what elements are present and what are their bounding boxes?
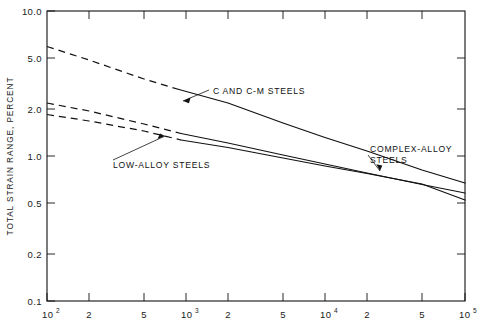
x-tick-label-1e3-mantissa: 10 [181, 309, 192, 320]
x-tick-label-2000: 2 [225, 309, 231, 320]
annotation-label-complex-alloy-line1: COMPLEX-ALLOY [370, 144, 452, 154]
y-axis-ticks [47, 11, 55, 301]
x-axis-ticks [47, 293, 465, 301]
x-tick-label-1e5-mantissa: 10 [459, 309, 470, 320]
series-low-alloy-steels-dashed-segment [47, 103, 181, 134]
annotation-low-alloy-steels: LOW-ALLOY STEELS [113, 134, 210, 170]
annotation-complex-alloy-steels: COMPLEX-ALLOY STEELS [368, 144, 452, 171]
y-axis-title: TOTAL STRAIN RANGE, PERCENT [5, 77, 15, 236]
x-tick-label-1e2-mantissa: 10 [42, 309, 53, 320]
y-tick-label-2: 2.0 [28, 104, 42, 115]
x-axis-ticks-top [89, 11, 422, 19]
strain-range-vs-cycles-chart: 10.0 5.0 2.0 1.0 0.5 0.2 0.1 10 2 2 5 10… [0, 0, 486, 328]
annotation-label-c-and-cm-steels: C AND C-M STEELS [213, 86, 305, 96]
x-tick-label-1e2-exponent: 2 [56, 307, 60, 314]
chart-svg: 10.0 5.0 2.0 1.0 0.5 0.2 0.1 10 2 2 5 10… [0, 0, 486, 328]
x-tick-label-500: 5 [141, 309, 147, 320]
leader-line-low-alloy-steels [113, 136, 165, 160]
annotation-c-and-cm-steels: C AND C-M STEELS [183, 86, 305, 103]
x-tick-label-1e4-mantissa: 10 [320, 309, 331, 320]
x-tick-label-1e5-exponent: 5 [473, 307, 477, 314]
y-axis-ticks-right [457, 58, 465, 254]
x-tick-label-1e4-exponent: 4 [334, 307, 338, 314]
y-tick-label-1: 1.0 [28, 151, 42, 162]
series-c-and-cm-steels-solid-segment [179, 90, 465, 184]
y-tick-label-5: 5.0 [28, 53, 42, 64]
x-tick-label-200: 2 [86, 309, 92, 320]
x-tick-label-20000: 2 [364, 309, 370, 320]
y-tick-label-0-2: 0.2 [28, 249, 42, 260]
y-tick-label-10: 10.0 [22, 6, 42, 17]
y-tick-label-0-1: 0.1 [28, 296, 42, 307]
y-tick-label-0-5: 0.5 [28, 198, 42, 209]
series-c-and-cm-steels-dashed-segment [47, 47, 179, 90]
x-tick-label-5000: 5 [280, 309, 286, 320]
annotation-label-complex-alloy-line2: STEELS [370, 155, 407, 165]
x-tick-label-1e3-exponent: 3 [195, 307, 199, 314]
x-tick-label-50000: 5 [419, 309, 425, 320]
annotation-label-low-alloy-steels: LOW-ALLOY STEELS [113, 160, 210, 170]
